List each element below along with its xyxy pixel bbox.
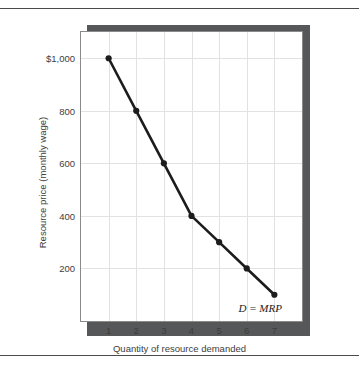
demand-curve-layer — [81, 32, 302, 321]
x-axis-tick-label: 7 — [272, 325, 277, 336]
plot-area — [81, 32, 302, 321]
data-point-marker — [133, 108, 139, 114]
x-axis-tick-label: 1 — [106, 325, 111, 336]
x-axis-tick-label: 3 — [161, 325, 166, 336]
x-axis-tick-label: 5 — [216, 325, 221, 336]
y-axis-title-holder: Resource price (monthly wage) — [22, 17, 36, 337]
plot-frame: D = MRP — [80, 31, 303, 322]
x-axis-tick-labels: 1234567 — [80, 325, 303, 339]
x-axis-tick-label: 2 — [134, 325, 139, 336]
data-point-marker — [271, 292, 277, 298]
data-point-marker — [244, 265, 250, 271]
y-axis-tick-label: 800 — [59, 105, 75, 116]
y-axis-title: Resource price (monthly wage) — [37, 83, 48, 283]
data-point-marker — [216, 239, 222, 245]
y-axis-tick-label: 600 — [59, 158, 75, 169]
y-axis-tick-label: 400 — [59, 210, 75, 221]
y-axis-tick-label: $1,000 — [46, 53, 75, 64]
demand-curve-line — [109, 58, 275, 294]
data-point-marker — [106, 55, 112, 61]
bottom-divider-rule — [0, 355, 359, 356]
chart-figure: D = MRP 200400600800$1,000 1234567 Resou… — [0, 9, 359, 355]
x-axis-tick-label: 6 — [244, 325, 249, 336]
data-point-marker — [161, 160, 167, 166]
x-axis-tick-label: 4 — [189, 325, 194, 336]
curve-annotation-d-equals-mrp: D = MRP — [238, 302, 281, 314]
x-axis-title: Quantity of resource demanded — [0, 343, 359, 354]
data-point-marker — [188, 213, 194, 219]
y-axis-tick-label: 200 — [59, 263, 75, 274]
